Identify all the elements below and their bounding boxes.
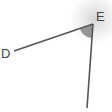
point-label-d: D xyxy=(1,47,10,60)
ray-ed xyxy=(14,24,93,51)
angle-diagram: D E xyxy=(0,0,112,112)
point-label-e: E xyxy=(96,10,105,23)
